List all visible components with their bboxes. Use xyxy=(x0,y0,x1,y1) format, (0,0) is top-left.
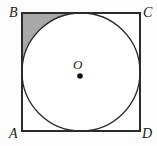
center-point-dot xyxy=(77,73,83,79)
vertex-label-b: B xyxy=(9,6,18,20)
geometry-figure: B C A D O xyxy=(0,0,157,146)
center-label-o: O xyxy=(73,58,82,71)
figure-canvas xyxy=(0,0,157,146)
vertex-label-c: C xyxy=(143,6,152,20)
vertex-label-a: A xyxy=(9,127,18,141)
vertex-label-d: D xyxy=(142,127,152,141)
